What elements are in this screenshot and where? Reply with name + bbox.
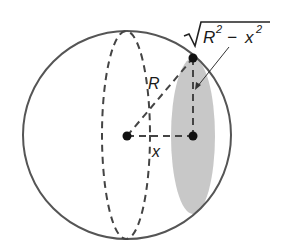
formula-sup2: 2 xyxy=(255,23,262,35)
distance-label: x xyxy=(151,143,161,160)
formula-sup1: 2 xyxy=(215,23,222,35)
cross-section-radius-formula: R 2 − x 2 xyxy=(184,22,270,47)
formula-R: R xyxy=(203,28,215,47)
sphere-diagram: R x R 2 − x 2 xyxy=(0,0,281,249)
formula-x: x xyxy=(244,28,254,47)
center-point xyxy=(123,132,132,141)
section-center-point xyxy=(189,132,198,141)
radius-label: R xyxy=(148,75,160,92)
formula-minus: − xyxy=(227,28,237,47)
surface-point xyxy=(189,54,198,63)
